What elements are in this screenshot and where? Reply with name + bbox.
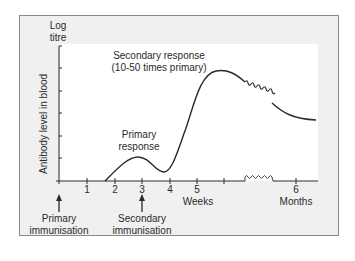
primary-immunisation-line2: immunisation xyxy=(26,225,92,237)
primary-response-line1: Primary xyxy=(114,129,164,141)
x-tick-4: 4 xyxy=(164,184,176,196)
axis-break-icon xyxy=(245,176,273,182)
antibody-curve-tail xyxy=(272,103,316,120)
y-units-label: Log titre xyxy=(46,20,70,44)
primary-response-annotation: Primary response xyxy=(114,129,164,153)
secondary-response-line2: (10-50 times primary) xyxy=(104,62,214,74)
secondary-immunisation-line1: Secondary xyxy=(109,213,175,225)
y-axis-title: Antibody level in blood xyxy=(38,74,49,174)
months-label: Months xyxy=(274,196,318,208)
secondary-immunisation-arrow-icon xyxy=(139,194,145,212)
antibody-curve xyxy=(105,71,245,181)
primary-response-line2: response xyxy=(114,141,164,153)
x-tick-5: 5 xyxy=(191,184,203,196)
secondary-response-line1: Secondary response xyxy=(104,50,214,62)
primary-immunisation-arrow-icon xyxy=(56,194,62,212)
y-units-line2: titre xyxy=(46,32,70,44)
x-tick-1: 1 xyxy=(81,184,93,196)
weeks-label: Weeks xyxy=(178,196,218,208)
primary-immunisation-label: Primary immunisation xyxy=(26,213,92,237)
secondary-immunisation-line2: immunisation xyxy=(109,225,175,237)
x-tick-3: 3 xyxy=(136,184,148,196)
x-tick-6: 6 xyxy=(290,184,302,196)
time-gap-wave-icon xyxy=(245,81,275,94)
secondary-response-annotation: Secondary response (10-50 times primary) xyxy=(104,50,214,74)
primary-immunisation-line1: Primary xyxy=(26,213,92,225)
y-units-line1: Log xyxy=(46,20,70,32)
secondary-immunisation-label: Secondary immunisation xyxy=(109,213,175,237)
x-tick-2: 2 xyxy=(109,184,121,196)
